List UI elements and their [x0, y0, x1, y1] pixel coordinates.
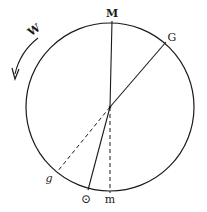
label-M: M [106, 7, 118, 20]
lunar-diagram: W M G g ⊙ m [0, 0, 207, 212]
dashed-line-to-g [57, 107, 110, 172]
label-g: g [45, 172, 52, 185]
line-to-sun [88, 107, 110, 190]
label-G: G [168, 31, 177, 44]
direction-arrow-arc [15, 38, 38, 74]
label-m: m [105, 193, 116, 206]
center-point [109, 106, 112, 109]
line-to-M [110, 21, 112, 107]
label-W: W [24, 21, 43, 40]
label-sun: ⊙ [81, 192, 91, 206]
line-to-G [110, 42, 166, 107]
